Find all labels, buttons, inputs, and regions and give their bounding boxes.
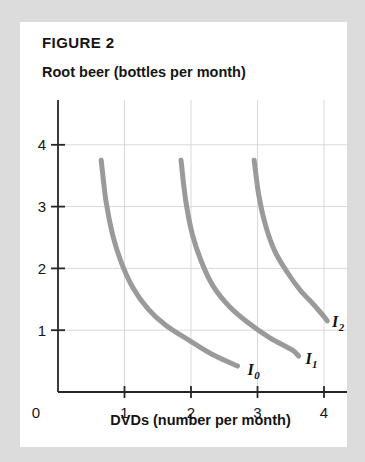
chart-plot-area: 123412340 I0I1I2	[20, 22, 347, 447]
y-tick-label: 2	[38, 260, 46, 277]
y-tick-label: 3	[38, 198, 46, 215]
curve-label-i1: I1	[304, 350, 317, 370]
curve-labels: I0I1I2	[247, 313, 345, 381]
indifference-curves	[101, 160, 327, 366]
x-axis-title: DVDs (number per month)	[20, 412, 347, 428]
curve-label-i0: I0	[247, 361, 261, 381]
curve-label-i2: I2	[331, 313, 345, 333]
axis-ticks	[51, 145, 324, 398]
y-tick-label: 4	[38, 136, 46, 153]
y-tick-label: 1	[38, 322, 46, 339]
tick-labels: 123412340	[32, 136, 328, 421]
vertical-gridlines	[125, 100, 325, 392]
curve-i0	[101, 160, 237, 366]
figure-card: FIGURE 2 Root beer (bottles per month) 1…	[20, 22, 347, 447]
curve-i2	[254, 160, 327, 321]
